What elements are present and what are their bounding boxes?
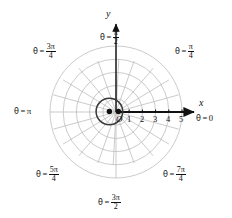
theta-symbol: θ [36,170,41,179]
fraction: 3π 4 [46,43,56,60]
theta-label-3pi-2: θ= 3π 2 [98,194,121,211]
fraction-numerator: 3π [46,43,56,51]
fraction-numerator: 5π [49,166,59,174]
equals-sign: = [42,169,47,179]
theta-symbol: θ [100,33,105,42]
zero-value: 0 [209,113,213,123]
fraction: π 4 [188,43,194,60]
fraction: 7π 4 [176,166,186,183]
fraction-numerator: π [188,43,194,51]
theta-label-3pi-4: θ= 3π 4 [33,43,56,60]
x-tick-1: 1 [127,114,131,124]
equals-sign: = [181,46,186,56]
theta-symbol: θ [163,170,168,179]
fraction-denominator: 4 [46,51,56,60]
x-tick-3: 3 [153,114,157,124]
fraction-denominator: 4 [176,174,186,183]
theta-label-pi-4: θ= π 4 [175,43,194,60]
fraction: π 2 [113,29,119,46]
y-axis-label: y [106,8,110,19]
polar-plot-figure: θ= π 2 θ= π 4 θ= 3π 4 θ=π θ=0 θ= 5π 4 θ=… [0,0,232,218]
center-point-marker [107,109,112,114]
fraction-numerator: 3π [111,194,121,202]
fraction-denominator: 2 [111,202,121,211]
fraction: 5π 4 [49,166,59,183]
theta-label-7pi-4: θ= 7π 4 [163,166,186,183]
fraction-denominator: 4 [188,51,194,60]
origin-tick-label: O [116,114,123,124]
x-tick-2: 2 [140,114,144,124]
equals-sign: = [39,46,44,56]
theta-symbol: θ [98,198,103,207]
theta-label-5pi-4: θ= 5π 4 [36,166,59,183]
theta-label-pi-2: θ= π 2 [100,29,119,46]
equals-sign: = [106,32,111,42]
theta-symbol: θ [14,107,19,116]
equals-sign: = [104,197,109,207]
equals-sign: = [20,106,25,116]
axis-lines [116,24,194,112]
fraction-denominator: 4 [49,174,59,183]
fraction-numerator: π [113,29,119,37]
x-tick-4: 4 [166,114,170,124]
theta-symbol: θ [33,47,38,56]
x-axis-label: x [199,97,203,108]
theta-label-0: θ=0 [196,114,213,123]
theta-symbol: θ [196,114,201,123]
pi-symbol: π [27,106,32,116]
equals-sign: = [202,113,207,123]
theta-symbol: θ [175,47,180,56]
equals-sign: = [169,169,174,179]
fraction: 3π 2 [111,194,121,211]
x-tick-5: 5 [179,114,183,124]
fraction-denominator: 2 [113,37,119,46]
theta-label-pi: θ=π [14,107,31,116]
fraction-numerator: 7π [176,166,186,174]
